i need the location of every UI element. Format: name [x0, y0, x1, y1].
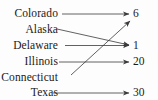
arrow-layer [0, 0, 158, 100]
mapping-diagram: Colorado Alaska Delaware Illinois Connec… [0, 0, 158, 100]
arrow-connecticut-to-6 [71, 21, 130, 75]
